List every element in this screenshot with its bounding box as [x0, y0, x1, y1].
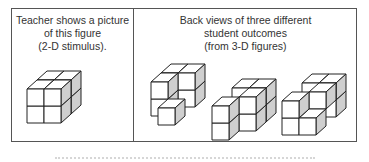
cut-off-caption — [0, 157, 369, 162]
cube-figures — [0, 0, 369, 162]
student-outcome-1 — [151, 64, 205, 125]
teacher-figure — [27, 71, 81, 123]
student-outcome-2 — [212, 79, 276, 140]
student-outcome-3 — [282, 74, 346, 135]
